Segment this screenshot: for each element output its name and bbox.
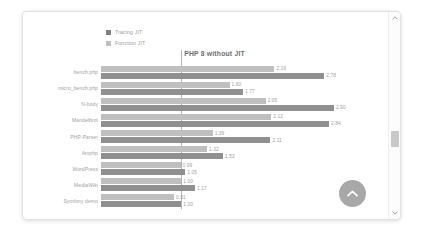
y-axis-label: bench.php <box>74 69 98 75</box>
bar-row-tracing-jit[interactable]: 2.84 <box>101 121 341 127</box>
bar-row-function-jit[interactable]: 0.99 <box>101 162 192 168</box>
legend-item-tracing-jit[interactable]: Tracing JIT <box>106 28 145 37</box>
chart-plot-area: bench.phpmicro_bench.phpN-bodyMandelbrot… <box>45 64 380 209</box>
bar-row-tracing-jit[interactable]: 1.05 <box>101 169 197 175</box>
scroll-to-top-button[interactable] <box>339 180 366 207</box>
bar-value-label: 1.60 <box>232 82 242 87</box>
bar-value-label: 2.78 <box>326 73 336 78</box>
bar-row-tracing-jit[interactable]: 1.00 <box>101 201 193 207</box>
bar-value-label: 1.77 <box>245 89 255 94</box>
y-axis-label: Amphp <box>82 150 98 156</box>
bar-tracing-jit[interactable] <box>101 153 223 159</box>
y-axis-label: Mandelbrot <box>72 117 98 123</box>
bar-value-label: 1.52 <box>225 154 235 159</box>
bar-row-function-jit[interactable]: 1.39 <box>101 130 224 136</box>
scrollbar-arrow-down-icon[interactable] <box>389 208 400 218</box>
bar-function-jit[interactable] <box>101 114 271 120</box>
bar-row-function-jit[interactable]: 2.05 <box>101 98 277 104</box>
bar-row-function-jit[interactable]: 2.12 <box>101 114 283 120</box>
bar-value-label: 0.99 <box>183 163 193 168</box>
bar-tracing-jit[interactable] <box>101 121 329 127</box>
bar-row-tracing-jit[interactable]: 1.52 <box>101 153 235 159</box>
y-axis-label: PHP-Parser <box>70 134 98 140</box>
bar-value-label: 1.39 <box>215 131 225 136</box>
bar-value-label: 2.16 <box>276 66 286 71</box>
bar-value-label: 2.12 <box>273 114 283 119</box>
bar-row-tracing-jit[interactable]: 2.90 <box>101 105 346 111</box>
legend-item-function-jit[interactable]: Function JIT <box>106 39 145 48</box>
bar-function-jit[interactable] <box>101 146 207 152</box>
legend-label-function-jit: Function JIT <box>115 41 145 46</box>
legend-swatch-function-jit <box>106 41 111 46</box>
bar-function-jit[interactable] <box>101 98 266 104</box>
y-axis-label: Symfony demo <box>63 198 98 204</box>
bar-value-label: 2.90 <box>336 105 346 110</box>
bar-row-function-jit[interactable]: 2.16 <box>101 66 286 72</box>
bar-value-label: 1.00 <box>183 202 193 207</box>
y-axis-label: WordPress <box>72 166 98 172</box>
bars-area: 2.162.781.601.772.052.902.122.841.392.11… <box>101 64 380 209</box>
bar-tracing-jit[interactable] <box>101 137 270 143</box>
chart-card: Tracing JIT Function JIT PHP 8 without J… <box>22 11 401 220</box>
vertical-scrollbar[interactable] <box>388 12 400 219</box>
scrollbar-thumb[interactable] <box>391 131 399 147</box>
chart-title: PHP 8 without JIT <box>23 50 388 57</box>
legend-label-tracing-jit: Tracing JIT <box>115 30 142 35</box>
bar-tracing-jit[interactable] <box>101 73 324 79</box>
scrollbar-track[interactable] <box>389 23 400 208</box>
bar-value-label: 1.00 <box>183 179 193 184</box>
bar-tracing-jit[interactable] <box>101 169 185 175</box>
bar-function-jit[interactable] <box>101 178 181 184</box>
chart-legend: Tracing JIT Function JIT <box>106 28 145 50</box>
bar-value-label: 0.91 <box>176 195 186 200</box>
bar-tracing-jit[interactable] <box>101 201 181 207</box>
bar-row-tracing-jit[interactable]: 2.11 <box>101 137 282 143</box>
bar-row-tracing-jit[interactable]: 2.78 <box>101 73 336 79</box>
bar-tracing-jit[interactable] <box>101 105 334 111</box>
bar-row-function-jit[interactable]: 1.60 <box>101 82 241 88</box>
bar-value-label: 1.05 <box>187 170 197 175</box>
bar-value-label: 1.17 <box>197 186 207 191</box>
bar-tracing-jit[interactable] <box>101 185 195 191</box>
legend-swatch-tracing-jit <box>106 30 111 35</box>
y-axis-label: MediaWiki <box>74 182 98 188</box>
y-axis-category-labels: bench.phpmicro_bench.phpN-bodyMandelbrot… <box>45 64 101 209</box>
bar-function-jit[interactable] <box>101 162 181 168</box>
chart-viewport: Tracing JIT Function JIT PHP 8 without J… <box>23 12 388 219</box>
bar-function-jit[interactable] <box>101 82 230 88</box>
bar-function-jit[interactable] <box>101 130 213 136</box>
bar-tracing-jit[interactable] <box>101 89 243 95</box>
bar-value-label: 2.05 <box>268 98 278 103</box>
chevron-up-icon <box>347 190 358 197</box>
screenshot-root: Tracing JIT Function JIT PHP 8 without J… <box>0 0 423 231</box>
scrollbar-arrow-up-icon[interactable] <box>389 13 400 23</box>
bar-function-jit[interactable] <box>101 194 174 200</box>
bar-function-jit[interactable] <box>101 66 274 72</box>
bar-row-function-jit[interactable]: 0.91 <box>101 194 186 200</box>
bar-value-label: 2.84 <box>331 121 341 126</box>
bar-row-function-jit[interactable]: 1.32 <box>101 146 219 152</box>
bar-row-tracing-jit[interactable]: 1.17 <box>101 185 207 191</box>
bar-value-label: 1.32 <box>209 147 219 152</box>
y-axis-label: micro_bench.php <box>58 85 98 91</box>
bar-row-function-jit[interactable]: 1.00 <box>101 178 193 184</box>
bar-row-tracing-jit[interactable]: 1.77 <box>101 89 255 95</box>
bar-value-label: 2.11 <box>272 138 281 143</box>
y-axis-label: N-body <box>81 101 98 107</box>
